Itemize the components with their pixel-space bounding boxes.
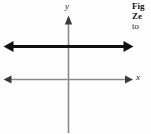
- y-axis-arrowhead-up: [65, 16, 72, 25]
- figure-caption: Fig Ze to: [132, 0, 151, 40]
- plot-line-arrowhead-left: [4, 41, 14, 52]
- caption-line-3: to: [132, 21, 151, 31]
- y-axis: [65, 16, 72, 134]
- coordinate-plane-svg: [0, 0, 151, 133]
- y-axis-label: y: [65, 2, 69, 11]
- graph-plot-area: y x: [0, 0, 151, 133]
- caption-line-2: Ze: [132, 11, 151, 21]
- figure-container: y x Fig Ze to: [0, 0, 151, 133]
- caption-line-1: Fig: [132, 1, 151, 11]
- x-axis-arrowhead-right: [125, 76, 133, 84]
- x-axis-label: x: [136, 73, 140, 82]
- x-axis-arrowhead-left: [4, 76, 12, 84]
- plot-line-arrowhead-right: [124, 41, 134, 52]
